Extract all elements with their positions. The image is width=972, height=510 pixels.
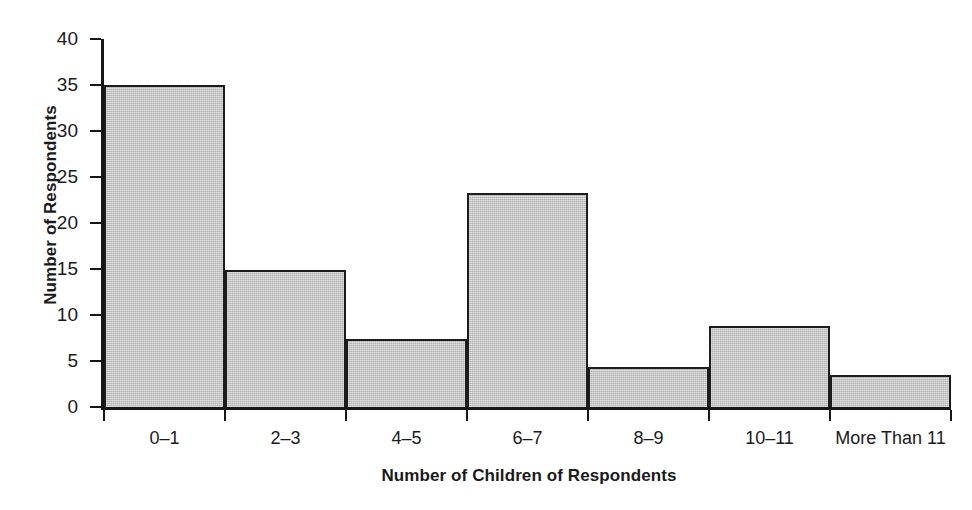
x-axis-tick (950, 410, 952, 421)
bar-4-5[interactable] (346, 339, 467, 407)
bar-0-1[interactable] (104, 85, 225, 407)
y-axis-tick (90, 268, 101, 270)
bar-6-7[interactable] (467, 193, 588, 407)
x-axis-tick-label: 6–7 (467, 429, 588, 447)
y-axis-tick-label: 15 (32, 259, 78, 278)
bar-more-than-11[interactable] (830, 375, 951, 407)
histogram-figure: Number of Respondents 05101520253035400–… (0, 0, 972, 510)
y-axis-tick-label: 30 (32, 121, 78, 140)
x-axis-tick-label: 2–3 (225, 429, 346, 447)
x-axis-tick (345, 410, 347, 421)
x-axis-tick-label: 8–9 (588, 429, 709, 447)
x-axis-tick (466, 410, 468, 421)
y-axis-tick-label: 25 (32, 167, 78, 186)
y-axis-tick (90, 38, 101, 40)
y-axis-tick-label: 35 (32, 75, 78, 94)
y-axis-tick-label: 5 (32, 351, 78, 370)
x-axis-tick-label: More Than 11 (830, 429, 951, 447)
x-axis-title: Number of Children of Respondents (86, 466, 972, 486)
bar-8-9[interactable] (588, 367, 709, 407)
x-axis-tick (587, 410, 589, 421)
y-axis-tick (90, 406, 101, 408)
y-axis-tick (90, 222, 101, 224)
x-axis-tick (224, 410, 226, 421)
x-axis-tick (103, 410, 105, 421)
x-axis-tick (708, 410, 710, 421)
x-axis-tick (829, 410, 831, 421)
bar-2-3[interactable] (225, 270, 346, 407)
y-axis-tick (90, 130, 101, 132)
x-axis-tick-label: 0–1 (104, 429, 225, 447)
x-axis-tick-label: 10–11 (709, 429, 830, 447)
y-axis-tick (90, 360, 101, 362)
y-axis-tick-label: 10 (32, 305, 78, 324)
y-axis-tick-label: 0 (32, 397, 78, 416)
y-axis-tick (90, 314, 101, 316)
y-axis-tick (90, 176, 101, 178)
y-axis-tick-label: 20 (32, 213, 78, 232)
y-axis-tick-label: 40 (32, 29, 78, 48)
bar-10-11[interactable] (709, 326, 830, 407)
x-axis-tick-label: 4–5 (346, 429, 467, 447)
x-axis-line (101, 407, 951, 410)
y-axis-tick (90, 84, 101, 86)
plot-area: 05101520253035400–12–34–56–78–910–11More… (0, 0, 972, 510)
